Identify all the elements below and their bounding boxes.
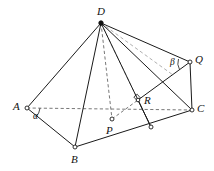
point-label-B: B [71, 154, 78, 165]
edge-DB [75, 23, 101, 147]
vertex-F [149, 125, 153, 129]
edge-AC [27, 108, 192, 110]
edge-DP [101, 23, 112, 119]
point-label-Q: Q [195, 54, 203, 65]
vertex-R [136, 98, 140, 102]
edge-group-dashed [27, 23, 192, 119]
vertex-A [25, 106, 29, 110]
vertex-B [73, 145, 77, 149]
point-label-D: D [97, 6, 105, 17]
vertex-C [190, 108, 194, 112]
edge-DA [27, 23, 101, 108]
point-label-P: P [106, 125, 113, 136]
vertex-Q [188, 60, 192, 64]
geometry-figure: D A B C Q P R α β [0, 0, 214, 171]
angle-arc-beta [178, 59, 180, 70]
point-label-A: A [13, 101, 20, 112]
angle-label-beta: β [170, 58, 175, 68]
vertex-P [110, 117, 114, 121]
edge-DQ [101, 23, 190, 62]
edge-BC [75, 110, 192, 147]
angle-label-alpha: α [33, 112, 38, 122]
point-label-C: C [197, 103, 204, 114]
edge-DQ-guide [101, 23, 173, 75]
point-label-R: R [144, 95, 151, 106]
edge-QC [190, 62, 192, 110]
figure-canvas [0, 0, 214, 171]
vertex-D [99, 21, 103, 25]
